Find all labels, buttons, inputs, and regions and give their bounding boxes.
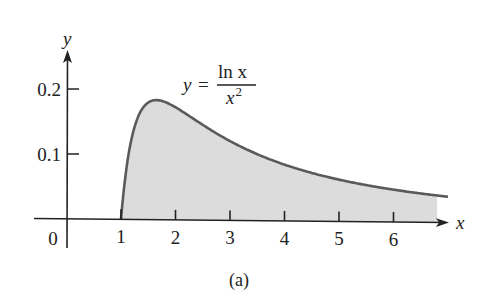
y-axis: y 0.2 0.1 0 — [37, 28, 79, 249]
origin-label: 0 — [48, 228, 58, 249]
x-tick-label-1: 1 — [116, 226, 126, 247]
function-numerator: ln x — [218, 61, 248, 82]
y-tick-label-0.2: 0.2 — [37, 79, 61, 100]
chart-figure: x 123456 y 0.2 0.1 0 y = ln x x2 (a) — [0, 0, 501, 299]
y-axis-label: y — [61, 28, 72, 49]
x-tick-label-4: 4 — [280, 228, 290, 249]
y-tick-label-0.1: 0.1 — [37, 144, 61, 165]
x-tick-label-3: 3 — [225, 227, 235, 248]
figure-caption: (a) — [229, 270, 249, 291]
function-denominator: x2 — [225, 84, 242, 108]
x-tick-label-5: 5 — [334, 228, 344, 249]
x-tick-label-2: 2 — [171, 227, 181, 248]
shaded-area-under-curve — [121, 100, 437, 222]
x-tick-label-6: 6 — [389, 229, 399, 250]
function-equals: = — [198, 74, 209, 95]
function-label: y = ln x x2 — [181, 61, 256, 108]
x-axis-label: x — [455, 212, 465, 233]
function-lhs: y — [181, 74, 192, 95]
